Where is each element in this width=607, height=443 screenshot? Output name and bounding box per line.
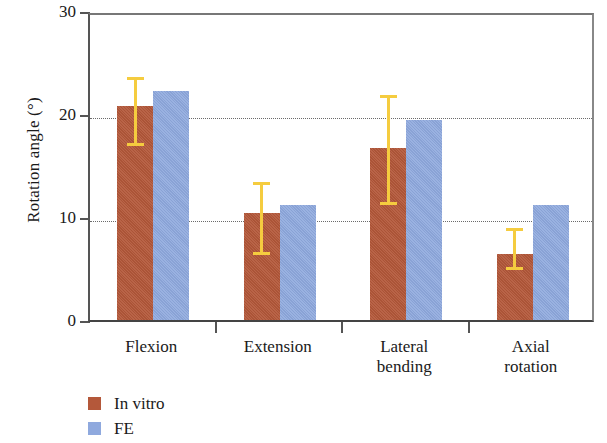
y-axis-tick-label: 30 bbox=[36, 3, 76, 20]
plot-inner bbox=[90, 15, 592, 320]
error-bar bbox=[253, 182, 271, 255]
bar-chart-figure: Rotation angle (°) 0102030 FlexionExtens… bbox=[0, 0, 607, 443]
legend: In vitroFE bbox=[88, 391, 165, 441]
x-axis-category-label: Lateralbending bbox=[341, 337, 468, 377]
x-axis-category-line: Lateral bbox=[341, 337, 468, 357]
x-axis-tick bbox=[341, 322, 343, 333]
plot-area bbox=[88, 13, 594, 322]
error-bar-stem bbox=[260, 182, 263, 255]
x-axis-category-line: Axial bbox=[468, 337, 595, 357]
error-bar-cap-bottom bbox=[253, 252, 270, 255]
error-bar-stem bbox=[513, 228, 516, 270]
error-bar bbox=[506, 228, 524, 270]
legend-item[interactable]: FE bbox=[88, 416, 165, 441]
legend-label: FE bbox=[114, 420, 134, 437]
y-axis-title: Rotation angle (°) bbox=[24, 30, 44, 290]
legend-item[interactable]: In vitro bbox=[88, 391, 165, 416]
x-axis-tick bbox=[215, 322, 217, 333]
y-axis-tick-label: 10 bbox=[36, 209, 76, 226]
x-axis-category-line: rotation bbox=[468, 357, 595, 377]
x-axis-category-line: Extension bbox=[215, 337, 342, 357]
bar-fe bbox=[153, 91, 189, 320]
error-bar-stem bbox=[134, 77, 137, 146]
y-axis-tick-label: 20 bbox=[36, 106, 76, 123]
error-bar-cap-bottom bbox=[127, 143, 144, 146]
bar-fe bbox=[280, 205, 316, 320]
x-axis-category-label: Flexion bbox=[88, 337, 215, 357]
bar-fe bbox=[533, 205, 569, 320]
error-bar-stem bbox=[387, 95, 390, 204]
error-bar bbox=[379, 95, 397, 204]
x-axis-category-label: Axialrotation bbox=[468, 337, 595, 377]
x-axis-category-line: bending bbox=[341, 357, 468, 377]
legend-swatch bbox=[88, 422, 101, 435]
legend-label: In vitro bbox=[114, 395, 165, 412]
error-bar bbox=[126, 77, 144, 146]
x-axis-category-label: Extension bbox=[215, 337, 342, 357]
x-axis-category-line: Flexion bbox=[88, 337, 215, 357]
error-bar-cap-bottom bbox=[506, 267, 523, 270]
bar-fe bbox=[406, 120, 442, 320]
legend-swatch bbox=[88, 397, 101, 410]
y-axis-tick-label: 0 bbox=[36, 312, 76, 329]
x-axis-tick bbox=[468, 322, 470, 333]
error-bar-cap-bottom bbox=[380, 202, 397, 205]
